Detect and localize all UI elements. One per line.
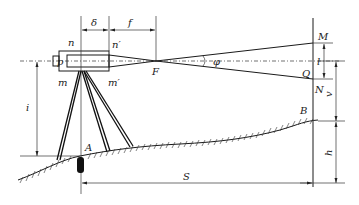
ray-to-N — [156, 61, 313, 79]
ray-to-M — [156, 43, 313, 61]
label-i: i — [26, 102, 29, 113]
label-S: S — [183, 171, 190, 182]
label-delta: δ — [91, 17, 97, 28]
label-l: l — [317, 56, 320, 67]
ray-upper-in — [109, 55, 156, 61]
label-m: m — [58, 77, 67, 88]
tripod-leg-2 — [82, 71, 107, 152]
tripod-leg-2b — [84, 71, 110, 151]
label-v: v — [323, 91, 334, 97]
label-n-prime: n′ — [112, 39, 121, 50]
ground-hatching — [20, 118, 313, 183]
label-Q: Q — [302, 68, 310, 79]
label-F: F — [151, 66, 160, 77]
label-h: h — [323, 150, 334, 156]
label-A: A — [84, 142, 92, 153]
label-B: B — [299, 105, 307, 116]
label-M: M — [317, 31, 329, 42]
label-phi: φ — [213, 56, 220, 67]
label-f: f — [127, 17, 134, 28]
label-p: p — [57, 56, 64, 67]
label-n: n — [68, 37, 74, 48]
ground-stake — [77, 157, 84, 173]
stadia-diagram: δ f n n′ p F m m′ φ M Q l N v i A B h S — [0, 0, 359, 205]
label-m-prime: m′ — [108, 77, 120, 88]
ray-lower-in — [109, 61, 156, 67]
tripod-leg-3 — [84, 71, 130, 147]
